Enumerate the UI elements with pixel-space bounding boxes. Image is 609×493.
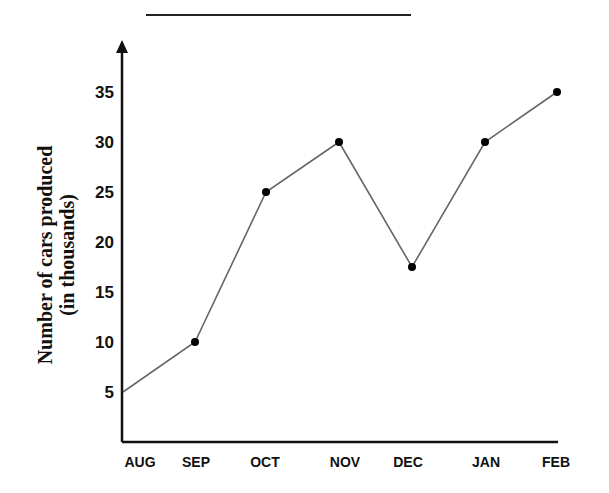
y-axis-label: Number of cars produced(in thousands) <box>34 146 79 365</box>
axes <box>116 40 558 442</box>
y-tick-label: 30 <box>95 133 114 152</box>
x-tick-label: OCT <box>250 454 280 470</box>
x-tick-label: JAN <box>472 454 500 470</box>
y-tick-labels: 5101520253035 <box>95 83 114 402</box>
y-tick-label: 5 <box>105 383 114 402</box>
y-tick-label: 25 <box>95 183 114 202</box>
y-tick-label: 35 <box>95 83 114 102</box>
y-tick-label: 20 <box>95 233 114 252</box>
x-tick-label: DEC <box>393 454 423 470</box>
x-tick-label: AUG <box>124 454 155 470</box>
data-point <box>553 88 561 96</box>
x-tick-label: FEB <box>542 454 570 470</box>
line-chart: 5101520253035 AUGSEPOCTNOVDECJANFEB Numb… <box>0 0 609 493</box>
y-axis-label-line1: Number of cars produced <box>34 146 57 365</box>
data-point <box>335 138 343 146</box>
y-tick-label: 15 <box>95 283 114 302</box>
x-tick-label: NOV <box>330 454 361 470</box>
y-axis-arrow-icon <box>116 40 128 53</box>
data-point <box>481 138 489 146</box>
data-point <box>408 263 416 271</box>
series-line <box>123 88 561 392</box>
data-point <box>191 338 199 346</box>
x-tick-label: SEP <box>182 454 210 470</box>
x-tick-labels: AUGSEPOCTNOVDECJANFEB <box>124 454 570 470</box>
y-axis-label-line2: (in thousands) <box>56 194 79 316</box>
data-point <box>262 188 270 196</box>
data-line <box>123 92 557 392</box>
y-tick-label: 10 <box>95 333 114 352</box>
